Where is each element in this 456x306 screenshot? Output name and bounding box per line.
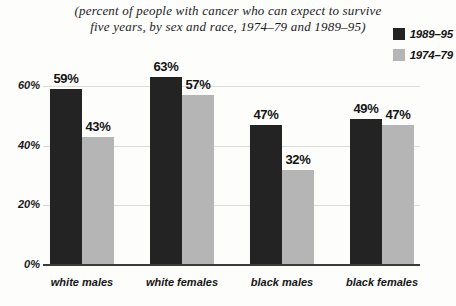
bar-1989-95 [250, 125, 282, 265]
bar-value-label: 43% [72, 119, 124, 134]
plot-area: 0%20%40%60%59%43%white males63%57%white … [0, 0, 456, 306]
category-label: black females [332, 276, 432, 288]
bar-1989-95 [150, 77, 182, 265]
bar-value-label: 57% [172, 77, 224, 92]
y-tick-label: 0% [0, 258, 40, 270]
bar-value-label: 32% [272, 152, 324, 167]
bar-value-label: 63% [140, 59, 192, 74]
bar-1989-95 [50, 89, 82, 265]
bar-value-label: 59% [40, 71, 92, 86]
bar-1974-79 [182, 95, 214, 265]
bar-value-label: 47% [372, 107, 424, 122]
gridline [43, 86, 420, 87]
bar-value-label: 47% [240, 107, 292, 122]
category-label: white males [32, 276, 132, 288]
bar-1974-79 [382, 125, 414, 265]
y-tick-label: 40% [0, 139, 40, 151]
x-axis-line [43, 264, 420, 266]
cancer-survival-bar-chart: (percent of people with cancer who can e… [0, 0, 456, 306]
bar-1974-79 [82, 137, 114, 265]
bar-1974-79 [282, 170, 314, 265]
y-tick-label: 60% [0, 79, 40, 91]
category-label: white females [132, 276, 232, 288]
bar-1989-95 [350, 119, 382, 265]
category-label: black males [232, 276, 332, 288]
y-tick-label: 20% [0, 198, 40, 210]
